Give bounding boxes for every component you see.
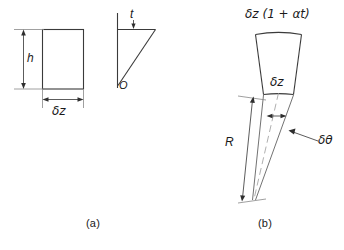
panel-a-h-arrow-down-icon — [21, 83, 26, 89]
panel-a-t-arrow-icon — [131, 24, 135, 30]
figure-drawing — [0, 0, 344, 250]
panel-b-outer-arc — [256, 32, 302, 34]
panel-a-origin-label: O — [119, 80, 128, 91]
panel-b-angle-leader-line — [293, 132, 318, 141]
panel-b-radius-dimension-line — [243, 100, 253, 198]
panel-b-radial-line-right — [256, 95, 294, 200]
panel-b-gap-arrow-left-icon — [267, 114, 273, 118]
panel-a-dz-arrow-left-icon — [43, 97, 49, 102]
panel-b-caption: (b) — [258, 218, 272, 229]
panel-a-height-label: h — [27, 52, 34, 64]
panel-b-inner-arc-label: δz — [270, 76, 284, 88]
panel-a-rectangle — [43, 30, 84, 90]
panel-a-triangle-hypotenuse — [118, 30, 156, 86]
panel-a-h-arrow-up-icon — [21, 30, 26, 36]
panel-b-element-right-side — [294, 35, 302, 95]
panel-b-radial-line-left — [253, 95, 264, 200]
panel-a-caption: (a) — [86, 218, 100, 229]
panel-a-thickness-label: t — [130, 8, 133, 20]
panel-b-outer-arc-label: δz (1 + αt) — [245, 8, 310, 20]
panel-b-radius-arrow-bottom-icon — [240, 195, 245, 201]
panel-b-angle-arrow-icon — [289, 129, 296, 135]
figure-container: h δz t O (a) δz (1 + αt) δz R δθ (b) — [0, 0, 344, 250]
panel-b-element-left-side — [256, 35, 264, 95]
panel-b-angle-label: δθ — [318, 134, 333, 146]
panel-a-width-label: δz — [52, 105, 66, 117]
panel-b-radius-label: R — [225, 136, 234, 148]
panel-a-dz-arrow-right-icon — [78, 97, 84, 102]
